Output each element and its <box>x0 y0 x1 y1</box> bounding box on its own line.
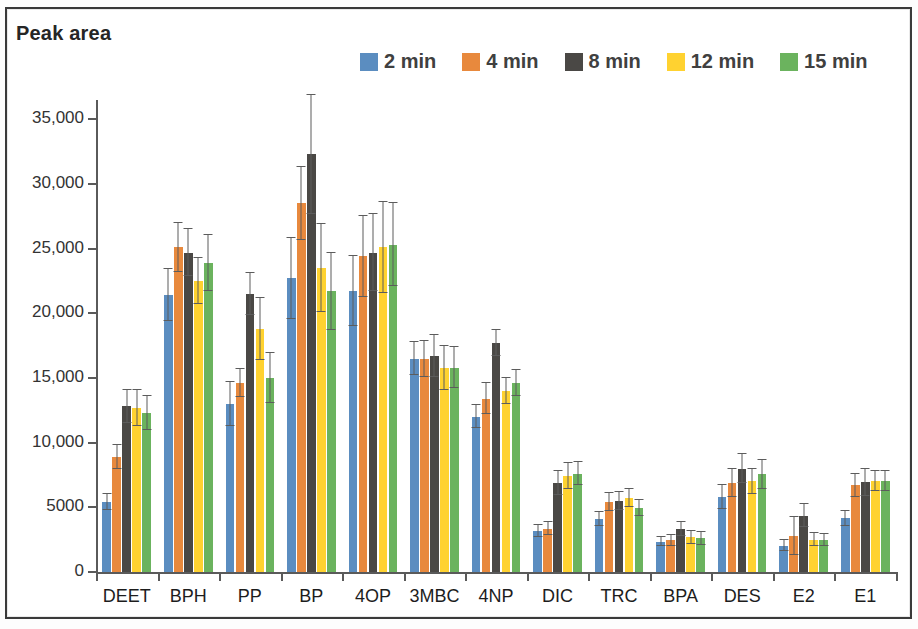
error-bar-line <box>198 258 199 305</box>
error-bar-line <box>444 346 445 390</box>
bar[interactable] <box>871 100 880 572</box>
bar[interactable] <box>738 100 747 572</box>
error-bar-cap-top <box>819 533 828 534</box>
bar[interactable] <box>502 100 511 572</box>
bar[interactable] <box>482 100 491 572</box>
y-axis-tick-label: 35,000 <box>0 108 84 128</box>
bar[interactable] <box>297 100 306 572</box>
error-bar-cap-bottom <box>605 510 614 511</box>
bar[interactable] <box>389 100 398 572</box>
legend-item-8-min[interactable]: 8 min <box>565 50 641 73</box>
error-bar-cap-bottom <box>676 535 685 536</box>
bar[interactable] <box>656 100 665 572</box>
bar[interactable] <box>450 100 459 572</box>
bar-rect <box>246 294 255 572</box>
bar[interactable] <box>246 100 255 572</box>
bar[interactable] <box>605 100 614 572</box>
bar[interactable] <box>226 100 235 572</box>
error-bar-cap-top <box>245 272 254 273</box>
bar[interactable] <box>122 100 131 572</box>
bar[interactable] <box>666 100 675 572</box>
error-bar-cap-top <box>881 470 890 471</box>
bar[interactable] <box>256 100 265 572</box>
bar[interactable] <box>789 100 798 572</box>
legend-item-15-min[interactable]: 15 min <box>780 50 867 73</box>
x-axis-tick-label: 4NP <box>465 586 527 607</box>
bar-rect <box>174 247 183 572</box>
bar[interactable] <box>349 100 358 572</box>
bar[interactable] <box>533 100 542 572</box>
error-bar-cap-top <box>789 516 798 517</box>
bar[interactable] <box>748 100 757 572</box>
bar[interactable] <box>204 100 213 572</box>
bar[interactable] <box>440 100 449 572</box>
bar-rect <box>184 253 193 572</box>
bar[interactable] <box>102 100 111 572</box>
error-bar-cap-bottom <box>511 395 520 396</box>
bar[interactable] <box>142 100 151 572</box>
bar[interactable] <box>779 100 788 572</box>
bar[interactable] <box>543 100 552 572</box>
bar[interactable] <box>430 100 439 572</box>
bar[interactable] <box>686 100 695 572</box>
bar[interactable] <box>266 100 275 572</box>
bar[interactable] <box>809 100 818 572</box>
bar[interactable] <box>676 100 685 572</box>
bar[interactable] <box>625 100 634 572</box>
bar[interactable] <box>112 100 121 572</box>
bar[interactable] <box>861 100 870 572</box>
bar[interactable] <box>553 100 562 572</box>
x-axis-tick <box>896 572 898 581</box>
legend-item-4-min[interactable]: 4 min <box>462 50 538 73</box>
bar-rect <box>543 529 552 572</box>
legend-item-2-min[interactable]: 2 min <box>360 50 436 73</box>
bar[interactable] <box>718 100 727 572</box>
bar[interactable] <box>307 100 316 572</box>
bar[interactable] <box>194 100 203 572</box>
bar[interactable] <box>758 100 767 572</box>
bar[interactable] <box>563 100 572 572</box>
bar[interactable] <box>595 100 604 572</box>
bar[interactable] <box>410 100 419 572</box>
bar[interactable] <box>881 100 890 572</box>
bar[interactable] <box>327 100 336 572</box>
bar[interactable] <box>420 100 429 572</box>
bar[interactable] <box>492 100 501 572</box>
error-bar-line <box>259 298 260 360</box>
bar[interactable] <box>841 100 850 572</box>
bar[interactable] <box>819 100 828 572</box>
bar[interactable] <box>359 100 368 572</box>
bar[interactable] <box>379 100 388 572</box>
bar[interactable] <box>236 100 245 572</box>
error-bar-cap-top <box>297 166 306 167</box>
bar-group-3MBC <box>410 100 459 572</box>
bar[interactable] <box>696 100 705 572</box>
error-bar-line <box>803 504 804 527</box>
bar[interactable] <box>851 100 860 572</box>
bar[interactable] <box>174 100 183 572</box>
error-bar-cap-bottom <box>368 290 377 291</box>
legend-item-12-min[interactable]: 12 min <box>667 50 754 73</box>
error-bar-cap-top <box>871 470 880 471</box>
bar-rect <box>102 502 111 572</box>
error-bar-cap-top <box>471 404 480 405</box>
error-bar-cap-top <box>348 255 357 256</box>
error-bar-cap-bottom <box>738 482 747 483</box>
bar[interactable] <box>472 100 481 572</box>
bar[interactable] <box>369 100 378 572</box>
bar[interactable] <box>799 100 808 572</box>
error-bar-cap-bottom <box>543 534 552 535</box>
bar[interactable] <box>164 100 173 572</box>
bar-rect <box>605 502 614 572</box>
bar[interactable] <box>615 100 624 572</box>
error-bar-cap-bottom <box>841 525 850 526</box>
bar[interactable] <box>512 100 521 572</box>
bar[interactable] <box>635 100 644 572</box>
bar[interactable] <box>573 100 582 572</box>
bar[interactable] <box>132 100 141 572</box>
bar[interactable] <box>184 100 193 572</box>
bar[interactable] <box>728 100 737 572</box>
legend-swatch-icon <box>780 53 798 71</box>
bar[interactable] <box>287 100 296 572</box>
bar[interactable] <box>317 100 326 572</box>
